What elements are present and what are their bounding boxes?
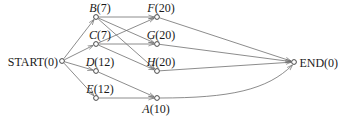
node-g	[155, 42, 160, 47]
node-label-d: D(12)	[85, 55, 115, 69]
activity-network-diagram: START(0)B(7)C(7)D(12)E(12)F(20)G(20)H(20…	[0, 0, 338, 121]
node-b	[94, 15, 99, 20]
node-label-b: B(7)	[89, 1, 110, 15]
node-end	[292, 60, 297, 65]
node-label-start: START(0)	[8, 55, 58, 69]
node-label-g: G(20)	[147, 28, 176, 42]
node-label-f: F(20)	[146, 1, 174, 15]
node-a	[155, 96, 160, 101]
node-e	[94, 96, 99, 101]
node-label-h: H(20)	[146, 55, 176, 69]
node-label-c: C(7)	[89, 28, 111, 42]
edge-f-to-end	[160, 18, 291, 61]
node-h	[155, 69, 160, 74]
node-label-e: E(12)	[85, 82, 113, 96]
node-d	[94, 69, 99, 74]
node-label-end: END(0)	[299, 56, 338, 70]
edge-h-to-end	[160, 62, 291, 71]
node-label-a: A(10)	[141, 102, 169, 116]
node-c	[94, 42, 99, 47]
labels-layer: START(0)B(7)C(7)D(12)E(12)F(20)G(20)H(20…	[8, 1, 338, 116]
node-start	[60, 59, 65, 64]
node-f	[155, 15, 160, 20]
edge-g-to-end	[160, 44, 291, 61]
